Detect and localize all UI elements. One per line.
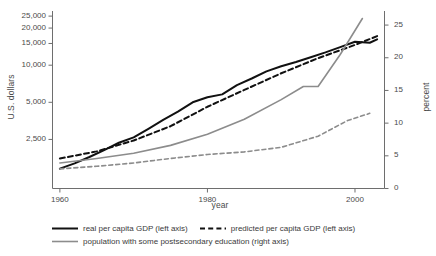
legend-row-2: population with some postsecondary educa… xyxy=(52,235,432,248)
plot-area xyxy=(0,0,436,256)
legend-label-postsecondary: population with some postsecondary educa… xyxy=(83,236,289,248)
series-line-2 xyxy=(60,19,362,163)
legend-label-predicted-gdp: predicted per capita GDP (left axis) xyxy=(231,223,355,235)
legend-label-real-gdp: real per capita GDP (left axis) xyxy=(83,223,188,235)
chart-figure: U.S. dollars percent year 2,5005,00010,0… xyxy=(0,0,436,256)
legend-swatch-solid-gray xyxy=(52,237,78,246)
series-line-1 xyxy=(60,36,377,158)
chart-legend: real per capita GDP (left axis) predicte… xyxy=(52,222,432,248)
legend-row-1: real per capita GDP (left axis) predicte… xyxy=(52,222,432,235)
series-line-3 xyxy=(60,113,370,169)
legend-swatch-dashed-black xyxy=(200,224,226,233)
legend-entry-predicted-gdp: predicted per capita GDP (left axis) xyxy=(200,223,355,235)
legend-entry-postsecondary: population with some postsecondary educa… xyxy=(52,236,289,248)
legend-swatch-solid-black xyxy=(52,224,78,233)
series-line-0 xyxy=(60,39,377,168)
legend-entry-real-gdp: real per capita GDP (left axis) xyxy=(52,223,188,235)
